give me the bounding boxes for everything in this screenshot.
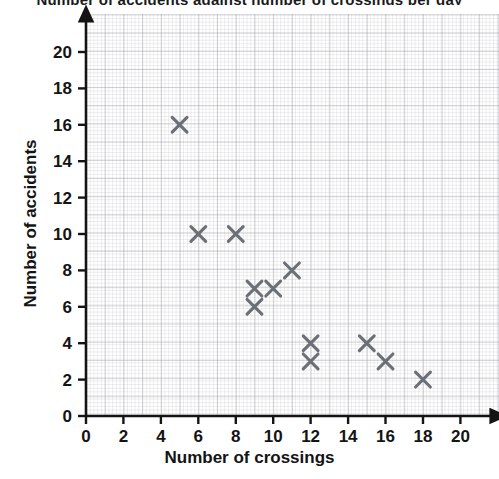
y-tick-label: 4 [44,335,72,352]
y-tick-label: 2 [44,371,72,388]
data-point [172,117,187,132]
data-point [378,354,393,369]
scatter-plot-figure: Number of accidents against number of cr… [0,0,499,479]
y-tick-label: 8 [44,262,72,279]
data-point [228,227,243,242]
y-tick-label: 6 [44,298,72,315]
y-tick-label: 12 [44,189,72,206]
x-tick-label: 4 [156,428,165,445]
x-tick-label: 0 [81,428,90,445]
x-axis-title: Number of crossings [0,449,499,466]
data-point [359,336,374,351]
x-tick-label: 10 [264,428,283,445]
y-tick-label: 18 [44,80,72,97]
x-tick-label: 2 [119,428,128,445]
data-point-group [172,117,430,387]
y-tick-label: 20 [44,44,72,61]
x-tick-label: 6 [194,428,203,445]
data-point [303,336,318,351]
plot-canvas [0,0,499,479]
data-point [247,299,262,314]
x-tick-label: 18 [414,428,433,445]
x-tick-label: 14 [339,428,358,445]
data-point [191,227,206,242]
x-tick-label: 16 [376,428,395,445]
y-tick-label: 16 [44,116,72,133]
data-point [247,281,262,296]
x-tick-label: 12 [301,428,320,445]
x-tick-label: 8 [231,428,240,445]
y-tick-label: 0 [44,408,72,425]
data-point [266,281,281,296]
data-point [416,372,431,387]
y-axis-title: Number of accidents [22,54,39,394]
data-point [285,263,300,278]
data-point [303,354,318,369]
y-tick-label: 10 [44,226,72,243]
x-tick-label: 20 [451,428,470,445]
y-tick-label: 14 [44,153,72,170]
